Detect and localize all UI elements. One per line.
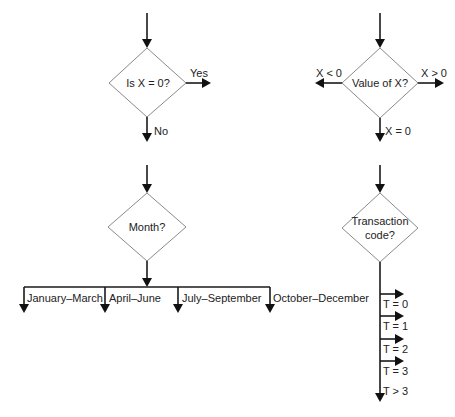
branch-label-yes: Yes [190,67,208,79]
branch-label-t0: T = 0 [383,298,408,310]
arrow-head-icon [265,304,275,313]
branch-label-no: No [154,125,168,137]
branch-label-t3: T = 3 [383,365,408,377]
arrow-head-icon [142,133,152,142]
decision-label-month: Month? [129,221,166,233]
diagram-month [19,165,275,313]
arrow-head-icon [142,278,152,287]
decision-label-line-1: Transaction [351,214,408,228]
branch-label-t1: T = 1 [383,320,408,332]
branch-label-jan-mar: January–March [27,292,103,304]
branch-label-oct-dec: October–December [273,292,369,304]
arrow-head-icon [173,304,183,313]
arrow-head-icon [142,39,152,48]
arrow-head-icon [19,304,29,313]
arrow-head-icon [315,78,324,88]
branch-label-apr-jun: April–June [109,292,161,304]
arrow-head-icon [375,184,385,193]
branch-label-x-greater-zero: X > 0 [421,67,447,79]
branch-label-t-greater-3: T > 3 [383,385,408,397]
arrow-head-icon [435,78,444,88]
decision-label-line-2: code? [351,228,408,242]
arrow-head-icon [375,39,385,48]
decision-label-transaction-code: Transaction code? [351,214,408,242]
branch-label-t2: T = 2 [383,343,408,355]
decision-label-value-of-x: Value of X? [352,77,408,89]
decision-label-is-x-zero: Is X = 0? [126,77,170,89]
branch-label-jul-sep: July–September [182,292,262,304]
arrow-head-icon [142,184,152,193]
branch-label-x-equal-zero: X = 0 [385,125,411,137]
arrow-head-icon [202,78,211,88]
arrow-head-icon [375,133,385,142]
arrow-head-icon [100,304,110,313]
branch-label-x-less-zero: X < 0 [316,67,342,79]
